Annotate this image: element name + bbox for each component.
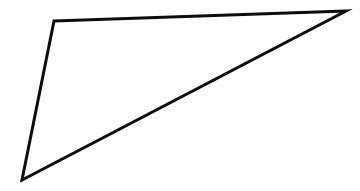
drawing-canvas (0, 0, 360, 191)
triangle-figure (0, 0, 360, 191)
